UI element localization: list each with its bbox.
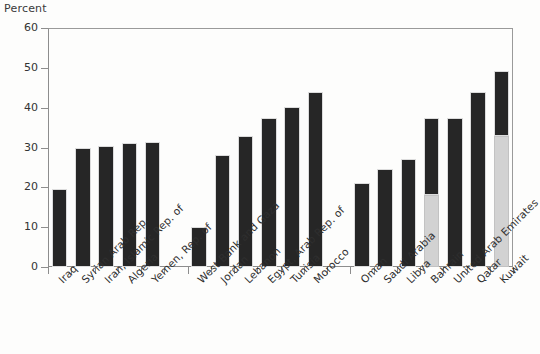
x-axis-category-label: Kuwait (497, 252, 531, 286)
x-axis-category-label: Iraq (56, 262, 79, 285)
x-axis-category-label: Morocco (311, 245, 351, 285)
caption-sliver (0, 346, 521, 354)
